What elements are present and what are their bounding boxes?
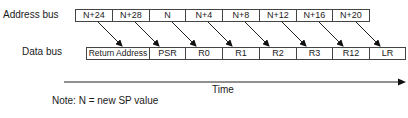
- arrow-icon: [282, 22, 306, 46]
- time-arrow-icon: [398, 79, 406, 86]
- arrow-icon: [245, 22, 269, 46]
- arrow-icon: [208, 22, 232, 46]
- arrow-icon: [135, 22, 159, 46]
- arrow-icon: [172, 22, 196, 46]
- arrow-icon: [98, 22, 122, 46]
- time-label: Time: [212, 84, 234, 96]
- arrow-icon: [319, 22, 343, 46]
- arrow-icon: [356, 22, 380, 46]
- note-text: Note: N = new SP value: [52, 95, 158, 107]
